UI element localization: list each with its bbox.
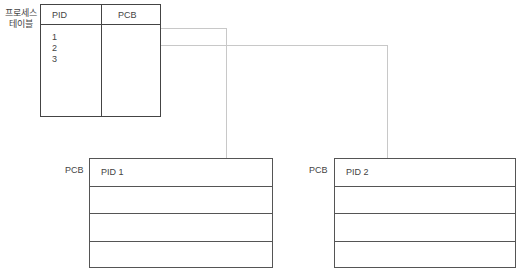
connector-1-vertical xyxy=(226,28,227,158)
pcb-2: PID 2 xyxy=(334,158,516,268)
connector-2-horizontal xyxy=(161,45,387,46)
process-table-label: 프로세스 테이블 xyxy=(4,8,38,30)
pid-entry: 1 xyxy=(52,32,57,43)
pcb-2-label: PCB xyxy=(309,165,328,176)
pcb-1-row-pid: PID 1 xyxy=(90,159,272,187)
pid-entry: 3 xyxy=(52,54,57,65)
pid-entry: 2 xyxy=(52,43,57,54)
pcb-2-row xyxy=(335,187,515,215)
pcb-1-row xyxy=(90,242,272,270)
pcb-1-row xyxy=(90,214,272,242)
header-pid: PID xyxy=(52,10,67,20)
pcb-2-row xyxy=(335,242,515,270)
process-table: PID PCB 1 2 3 xyxy=(40,4,161,117)
connector-2-vertical xyxy=(387,45,388,158)
pcb-2-row-pid: PID 2 xyxy=(335,159,515,187)
pcb-1-row xyxy=(90,187,272,215)
connector-1-horizontal xyxy=(161,28,226,29)
pid-list: 1 2 3 xyxy=(52,32,57,65)
pcb-1-label: PCB xyxy=(65,165,84,176)
column-divider xyxy=(101,5,102,116)
header-pcb: PCB xyxy=(118,10,137,20)
pcb-1: PID 1 xyxy=(89,158,273,268)
process-table-label-line2: 테이블 xyxy=(4,19,38,30)
pcb-2-row xyxy=(335,214,515,242)
process-table-label-line1: 프로세스 xyxy=(4,8,38,19)
